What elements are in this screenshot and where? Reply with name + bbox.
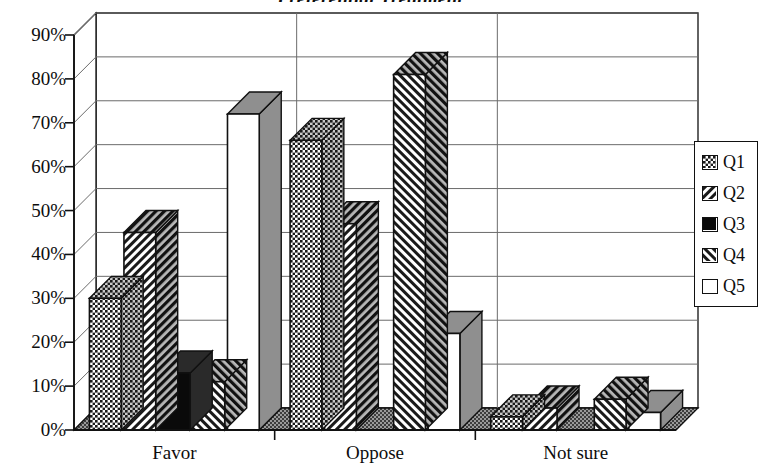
legend-label-q4: Q4 bbox=[723, 246, 745, 264]
legend-swatch-q4-icon bbox=[702, 248, 718, 263]
legend-label-q5: Q5 bbox=[723, 277, 745, 295]
bar-oppose-q4 bbox=[394, 53, 448, 431]
legend-swatch-q1-icon bbox=[702, 155, 718, 170]
x-axis-label-favor: Favor bbox=[74, 442, 275, 464]
legend-item-q2[interactable]: Q2 bbox=[702, 180, 760, 206]
legend-swatch-q3-icon bbox=[702, 217, 718, 232]
legend-label-q2: Q2 bbox=[723, 184, 745, 202]
bar-favor-q1 bbox=[89, 276, 143, 430]
chart-canvas: Preferential Treatment 0%10%20%30%40%50%… bbox=[0, 0, 772, 472]
bar-chart-plot bbox=[0, 0, 772, 472]
x-axis-label-not-sure: Not sure bbox=[475, 442, 676, 464]
bar-oppose-q1 bbox=[290, 118, 344, 430]
legend-item-q4[interactable]: Q4 bbox=[702, 242, 760, 268]
legend-swatch-q2-icon bbox=[702, 186, 718, 201]
legend-label-q3: Q3 bbox=[723, 215, 745, 233]
legend-label-q1: Q1 bbox=[723, 153, 745, 171]
legend-item-q3[interactable]: Q3 bbox=[702, 211, 760, 237]
legend-item-q5[interactable]: Q5 bbox=[702, 273, 760, 299]
legend-item-q1[interactable]: Q1 bbox=[702, 149, 760, 175]
chart-legend: Q1Q2Q3Q4Q5 bbox=[694, 141, 758, 307]
x-axis-label-oppose: Oppose bbox=[275, 442, 476, 464]
legend-swatch-q5-icon bbox=[702, 279, 718, 294]
